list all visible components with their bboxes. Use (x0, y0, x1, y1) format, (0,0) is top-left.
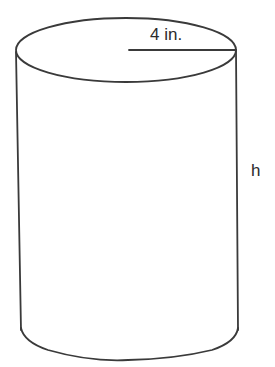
cylinder-drawing (0, 0, 275, 367)
radius-label: 4 in. (150, 26, 182, 43)
right-side (236, 50, 238, 330)
height-label: h (251, 162, 260, 179)
cylinder-figure: 4 in. h (0, 0, 275, 367)
bottom-arc (21, 328, 238, 360)
left-side (16, 52, 21, 330)
